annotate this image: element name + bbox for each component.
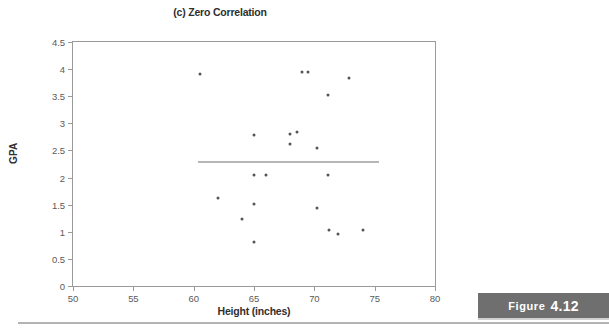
trend-line (198, 161, 379, 162)
scatter-point (327, 228, 330, 231)
y-axis-tick (68, 123, 73, 124)
x-axis-tick (73, 286, 74, 291)
scatter-point (348, 76, 351, 79)
y-axis-tick-label: 3 (60, 118, 65, 129)
y-axis-tick (68, 259, 73, 260)
scatter-point (253, 133, 256, 136)
y-axis-tick-label: 2 (60, 172, 65, 183)
x-axis-tick-label: 60 (188, 293, 198, 304)
scatter-point (240, 217, 243, 220)
y-axis-tick-label: 1.5 (52, 199, 65, 210)
scatter-point (289, 143, 292, 146)
y-axis-tick (68, 96, 73, 97)
figure-container: (c) Zero Correlation GPA 00.511.522.533.… (0, 0, 609, 334)
scatter-point (216, 197, 219, 200)
scatter-point (265, 174, 268, 177)
x-axis-tick (133, 286, 134, 291)
scatter-point (253, 174, 256, 177)
scatter-point (315, 147, 318, 150)
scatter-point (253, 240, 256, 243)
y-axis-tick (68, 205, 73, 206)
x-axis-tick (194, 286, 195, 291)
figure-caption-number: 4.12 (550, 298, 578, 314)
scatter-point (296, 131, 299, 134)
y-axis-tick-label: 4.5 (52, 37, 65, 48)
figure-badge-shadow (478, 318, 609, 320)
scatter-point (253, 202, 256, 205)
x-axis-tick (314, 286, 315, 291)
x-axis-tick-label: 55 (128, 293, 138, 304)
scatter-point (361, 228, 364, 231)
y-axis-tick-label: 0 (60, 281, 65, 292)
x-axis-title: Height (inches) (72, 305, 436, 317)
plot-area: 00.511.522.533.544.550556065707580 (72, 41, 436, 287)
scatter-point (301, 70, 304, 73)
scatter-point (315, 206, 318, 209)
scatter-point (337, 233, 340, 236)
x-axis-tick-label: 65 (249, 293, 259, 304)
y-axis-tick (68, 232, 73, 233)
x-axis-tick (435, 286, 436, 291)
y-axis-tick-label: 1 (60, 226, 65, 237)
y-axis-tick-label: 2.5 (52, 145, 65, 156)
y-axis-tick (68, 69, 73, 70)
scatter-point (307, 70, 310, 73)
figure-caption-badge: Figure 4.12 (478, 293, 609, 318)
x-axis-tick-label: 70 (309, 293, 319, 304)
y-axis-tick-label: 0.5 (52, 253, 65, 264)
footer-rule (18, 322, 609, 324)
scatter-point (326, 174, 329, 177)
x-axis-tick (254, 286, 255, 291)
scatter-point (198, 72, 201, 75)
scatter-points-layer (73, 42, 435, 286)
scatter-point (289, 133, 292, 136)
chart-title: (c) Zero Correlation (0, 6, 440, 18)
scatter-point (326, 93, 329, 96)
y-axis-tick-label: 4 (60, 64, 65, 75)
y-axis-tick-label: 3.5 (52, 91, 65, 102)
y-axis-title: GPA (8, 142, 19, 164)
x-axis-tick-label: 80 (430, 293, 440, 304)
y-axis-tick (68, 150, 73, 151)
y-axis-tick (68, 42, 73, 43)
x-axis-tick (375, 286, 376, 291)
y-axis-tick (68, 178, 73, 179)
figure-caption-word: Figure (508, 300, 545, 312)
x-axis-tick-label: 75 (369, 293, 379, 304)
x-axis-tick-label: 50 (68, 293, 78, 304)
